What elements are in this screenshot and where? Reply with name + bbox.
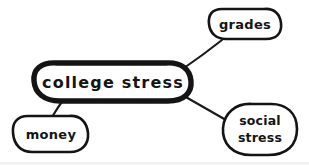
edge-central-to-grades <box>184 40 222 68</box>
node-college-stress[interactable]: college stress <box>34 63 191 101</box>
node-social-stress-label-line2: stress <box>238 130 282 145</box>
node-grades-label: grades <box>219 17 271 32</box>
edge-central-to-social-stress <box>184 96 226 120</box>
bottom-edge-band <box>0 162 309 165</box>
node-money-label: money <box>26 127 77 142</box>
node-grades[interactable]: grades <box>209 9 281 39</box>
mindmap-drawing: college stress grades money social stres… <box>0 0 309 165</box>
node-social-stress-label-line1: social <box>239 113 281 128</box>
node-college-stress-label: college stress <box>42 73 184 92</box>
node-money[interactable]: money <box>13 116 88 152</box>
node-social-stress[interactable]: social stress <box>223 104 297 155</box>
mindmap-canvas: college stress grades money social stres… <box>0 0 309 165</box>
